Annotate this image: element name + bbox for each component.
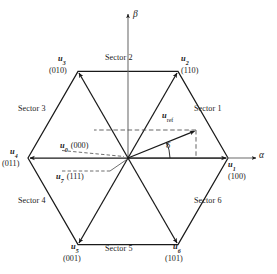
u6-name-row: u6 xyxy=(165,242,183,254)
u6-subscript: 6 xyxy=(178,248,181,254)
vector-label-u5: u5 (001) xyxy=(63,242,81,263)
vector-label-u4: u4 (011) xyxy=(2,147,19,168)
sector-label-5: Sector 5 xyxy=(105,244,133,253)
u1-name: u xyxy=(228,160,233,169)
u3-code: (010) xyxy=(49,66,67,75)
u2-name-row: u2 xyxy=(181,54,198,66)
u4-subscript: 4 xyxy=(15,153,18,159)
sector-label-1: Sector 1 xyxy=(194,104,222,113)
svm-hexagon-figure: β α δ uref u0(000) u7(111) u1 (100) u2 (… xyxy=(0,0,277,274)
uref-name: u xyxy=(162,111,167,120)
u7-leader-line xyxy=(62,160,126,171)
zero-vector-u7-label: u7(111) xyxy=(56,172,84,183)
u3-name: u xyxy=(58,54,63,63)
vector-label-u6: u6 (101) xyxy=(165,242,183,263)
sector-label-2: Sector 2 xyxy=(105,53,133,62)
u7-name: u xyxy=(56,172,61,181)
sector-label-4: Sector 4 xyxy=(18,196,46,205)
alpha-axis-label: α xyxy=(259,150,264,160)
u5-name-row: u5 xyxy=(63,242,81,254)
sector-label-6: Sector 6 xyxy=(194,196,222,205)
u4-name-row: u4 xyxy=(2,147,19,159)
u1-code: (100) xyxy=(228,172,246,181)
u7-subscript: 7 xyxy=(61,178,64,184)
vector-label-u1: u1 (100) xyxy=(228,160,246,181)
sector-label-3: Sector 3 xyxy=(18,104,46,113)
u3-name-row: u3 xyxy=(49,54,67,66)
u5-subscript: 5 xyxy=(76,248,79,254)
active-vector-u6 xyxy=(128,158,177,243)
u2-name: u xyxy=(181,54,186,63)
reference-vector-label: uref xyxy=(162,111,173,123)
u0-code: (000) xyxy=(71,141,89,150)
u5-name: u xyxy=(71,242,76,251)
u4-name: u xyxy=(10,147,15,156)
u4-code: (011) xyxy=(2,159,19,168)
u2-subscript: 2 xyxy=(186,60,189,66)
u1-subscript: 1 xyxy=(233,166,236,172)
uref-subscript: ref xyxy=(167,117,174,123)
u5-code: (001) xyxy=(63,254,81,263)
svm-diagram-canvas xyxy=(0,0,277,274)
vector-label-u3: u3 (010) xyxy=(49,54,67,75)
u7-code: (111) xyxy=(67,172,84,181)
beta-axis-label: β xyxy=(133,9,138,19)
u6-code: (101) xyxy=(165,254,183,263)
u2-code: (110) xyxy=(181,66,198,75)
u3-subscript: 3 xyxy=(63,60,66,66)
reference-vector-arrow xyxy=(128,131,195,158)
u1-name-row: u1 xyxy=(228,160,246,172)
u0-name: u xyxy=(60,141,65,150)
u0-subscript: 0 xyxy=(65,147,68,153)
u6-name: u xyxy=(173,242,178,251)
vector-label-u2: u2 (110) xyxy=(181,54,198,75)
zero-vector-u0-label: u0(000) xyxy=(60,141,88,152)
delta-angle-label: δ xyxy=(166,140,170,150)
